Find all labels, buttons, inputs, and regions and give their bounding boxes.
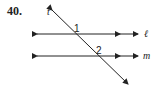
transversal-label: t bbox=[47, 6, 50, 17]
parallel-arrow-icon bbox=[115, 31, 121, 37]
parallel-arrow-icon bbox=[115, 53, 121, 59]
line-m-label: m bbox=[143, 50, 150, 61]
transversal-t: t bbox=[47, 6, 128, 84]
line-l: ℓ bbox=[37, 28, 148, 39]
parallel-lines-diagram: ℓ m t 1 2 bbox=[0, 0, 162, 91]
angle-1-label: 1 bbox=[74, 23, 80, 34]
line-l-label: ℓ bbox=[144, 28, 148, 39]
angle-2-label: 2 bbox=[96, 45, 102, 56]
line-m: m bbox=[37, 50, 150, 61]
